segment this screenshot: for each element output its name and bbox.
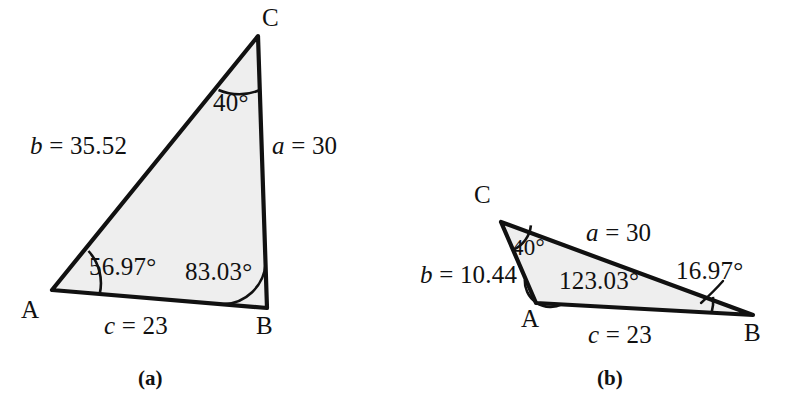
- triangle-b-vertex-label-C: C: [474, 182, 491, 207]
- triangle-a-angle-label-A: 56.97°: [89, 254, 156, 279]
- triangle-a-angle-label-B: 83.03°: [185, 259, 252, 284]
- side-var-a: a: [272, 132, 285, 159]
- side-var-b: b: [30, 132, 43, 159]
- geometry-layer: [0, 0, 793, 412]
- angle-value-A: 123.03: [559, 267, 629, 294]
- triangle-b-side-label-c: c = 23: [588, 322, 652, 347]
- side-eq-c: =: [599, 321, 626, 348]
- side-eq-b: =: [43, 132, 70, 159]
- side-var-c: c: [104, 312, 115, 339]
- triangle-a-side-label-c: c = 23: [104, 313, 168, 338]
- side-eq-c: =: [115, 312, 142, 339]
- triangle-b-side-label-b: b = 10.44: [420, 262, 517, 287]
- side-value-a: 30: [312, 132, 337, 159]
- side-value-b: 10.44: [460, 261, 517, 288]
- angle-value-A: 56.97: [89, 253, 146, 280]
- side-value-a: 30: [626, 219, 651, 246]
- triangle-a-side-label-b: b = 35.52: [30, 133, 127, 158]
- side-var-a: a: [586, 219, 599, 246]
- side-var-c: c: [588, 321, 599, 348]
- triangle-a-vertex-label-B: B: [256, 313, 273, 338]
- triangle-b-vertex-label-A: A: [521, 306, 539, 331]
- side-value-c: 23: [627, 321, 652, 348]
- triangle-b-vertex-label-B: B: [744, 320, 761, 345]
- triangle-a-vertex-label-A: A: [21, 297, 39, 322]
- degree-icon: °: [535, 235, 544, 260]
- angle-value-C: 40: [213, 89, 238, 116]
- figure-root: A B C b = 35.52 a = 30 c = 23 40° 56.97°…: [0, 0, 793, 412]
- angle-value-B: 83.03: [185, 258, 242, 285]
- panel-a-caption: (a): [138, 368, 163, 389]
- side-eq-a: =: [285, 132, 312, 159]
- degree-icon: °: [146, 253, 156, 280]
- triangle-b-side-label-a: a = 30: [586, 220, 651, 245]
- side-eq-b: =: [433, 261, 460, 288]
- triangle-b-angle-label-C: 40°: [512, 236, 545, 259]
- triangle-b-angle-label-B: 16.97°: [676, 258, 743, 283]
- triangle-b-angle-label-A: 123.03°: [559, 268, 639, 293]
- side-value-c: 23: [143, 312, 168, 339]
- side-eq-a: =: [599, 219, 626, 246]
- angle-value-C: 40: [512, 235, 535, 260]
- panel-b-caption: (b): [597, 368, 623, 389]
- triangle-a-side-label-a: a = 30: [272, 133, 337, 158]
- angle-value-B: 16.97: [676, 257, 733, 284]
- degree-icon: °: [629, 267, 639, 294]
- side-var-b: b: [420, 261, 433, 288]
- degree-icon: °: [242, 258, 252, 285]
- side-value-b: 35.52: [70, 132, 127, 159]
- triangle-a-angle-label-C: 40°: [213, 90, 249, 115]
- degree-icon: °: [238, 89, 248, 116]
- degree-icon: °: [733, 257, 743, 284]
- triangle-a-vertex-label-C: C: [262, 5, 279, 30]
